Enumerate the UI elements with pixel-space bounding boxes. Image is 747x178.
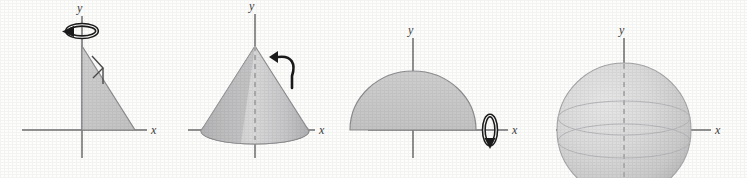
semicircle-region [350, 71, 476, 130]
x-axis-label: x [150, 123, 157, 137]
y-axis-label: y [407, 23, 414, 37]
rotation-arrow-vertical-ellipse-icon [484, 116, 496, 150]
x-axis-label: x [318, 123, 325, 137]
y-axis-label: y [248, 0, 255, 13]
y-axis-label: y [618, 23, 625, 37]
solids-of-revolution-figure-strip: y x [0, 0, 747, 178]
rotation-arrow-horizontal-ellipse-icon [62, 25, 97, 37]
panel-solid-sphere: y x [556, 0, 747, 178]
panel-plane-region-triangle: y x [0, 0, 190, 178]
panel-plane-region-semicircle: y x [368, 0, 563, 178]
x-axis-label: x [714, 123, 721, 137]
x-axis-label: x [511, 123, 518, 137]
y-axis-label: y [76, 1, 83, 15]
panel-solid-cone: y x [180, 0, 370, 178]
triangle-region [82, 46, 135, 130]
